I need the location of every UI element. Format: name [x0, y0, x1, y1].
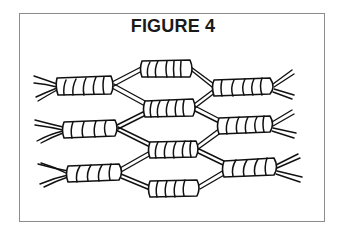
knotted-net-illustration [0, 0, 346, 239]
knot-row2-left [63, 120, 118, 138]
knot-mid-lower [149, 141, 199, 158]
knot-row1-right [213, 78, 274, 96]
knot-top-middle [141, 60, 193, 77]
knot-row2-right [218, 116, 273, 134]
knot-bottom-middle [149, 180, 200, 197]
knot-mid-upper [144, 99, 196, 117]
knot-row3-right [223, 158, 277, 177]
knot-row1-left [56, 76, 113, 95]
knot-row3-left [67, 164, 122, 182]
